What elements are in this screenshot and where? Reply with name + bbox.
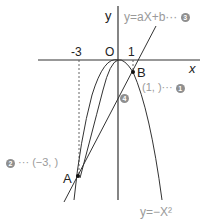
graph-canvas [0, 0, 205, 224]
function-graph-diagram: y x O -3 1 y=aX+b··· 3 B (1, )··· 1 4 2 … [0, 0, 205, 224]
origin-label: O [105, 46, 114, 58]
point-a-label: A [63, 172, 72, 185]
line-equation-text: y=aX+b··· [124, 10, 177, 24]
tick-label-minus-3: -3 [71, 46, 82, 58]
tick-label-1: 1 [128, 46, 135, 58]
parabola-left-branch [74, 60, 118, 200]
marker-1-icon: 1 [176, 84, 185, 93]
point-a [76, 174, 80, 178]
parabola-equation-label: y=−X² [140, 206, 172, 218]
x-axis-label: x [189, 62, 196, 75]
line-equation-label: y=aX+b··· 3 [124, 11, 190, 23]
point-a-coordinate: 2 ··· (−3, ) [6, 157, 58, 168]
marker-3-icon: 3 [181, 13, 190, 22]
coord-a-text: (−3, ) [32, 156, 58, 168]
y-axis-label: y [105, 9, 112, 22]
coord-a-prefix: ··· [18, 156, 29, 168]
marker-2-icon: 2 [6, 159, 15, 168]
point-b-label: B [137, 66, 146, 79]
coord-b-text: (1, )··· [142, 81, 173, 93]
marker-4-icon: 4 [120, 94, 129, 103]
point-b [131, 70, 135, 74]
point-b-coordinate: (1, )··· 1 [142, 82, 185, 93]
